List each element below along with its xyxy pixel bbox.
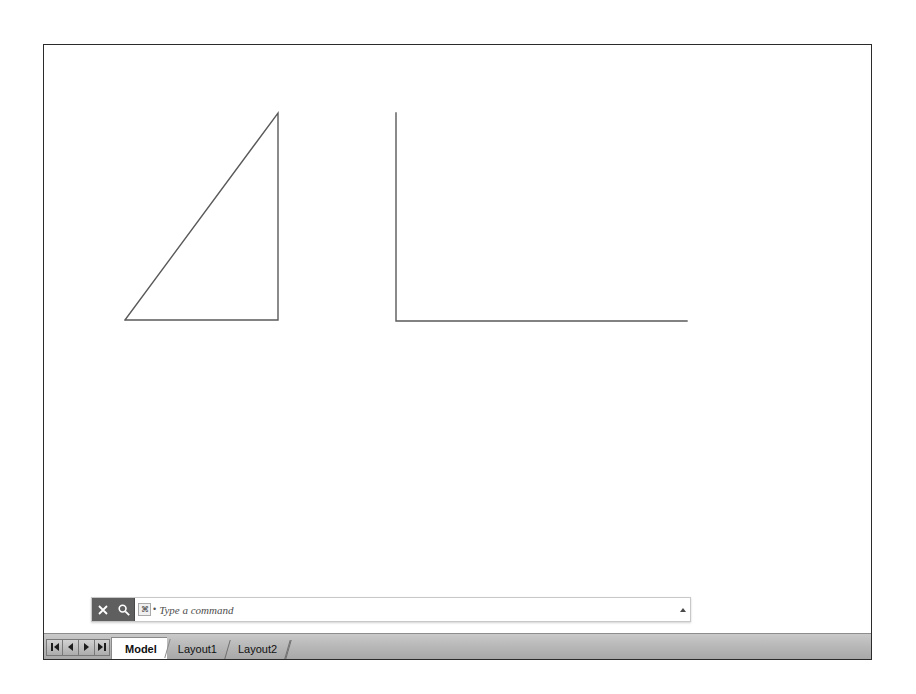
nav-last-icon [98,643,106,651]
tab-strip-tail [285,639,299,659]
last-layout-button[interactable] [94,639,110,656]
search-icon[interactable] [117,603,131,617]
command-line-bar[interactable]: ⌘ • [91,597,691,622]
nav-first-icon [51,643,59,651]
application-window: ⌘ • [43,44,872,660]
layout-navigation-buttons [46,638,110,656]
close-icon[interactable] [96,603,110,617]
command-prompt-bullet: • [151,605,159,614]
tab-model-label: Model [125,643,157,655]
previous-layout-button[interactable] [62,639,78,656]
layout-tab-bar: Model Layout1 Layout2 [44,633,871,659]
drawing-canvas[interactable] [44,45,871,633]
shape-l-polyline[interactable] [396,113,687,321]
expand-up-icon[interactable] [676,608,690,612]
nav-next-icon [84,643,89,651]
command-line-tools [92,598,135,621]
first-layout-button[interactable] [46,639,62,656]
tab-layout2[interactable]: Layout2 [225,639,287,659]
tab-layout2-label: Layout2 [238,643,277,655]
next-layout-button[interactable] [78,639,94,656]
command-input[interactable] [159,604,676,616]
tab-layout1[interactable]: Layout1 [165,639,227,659]
layout-tabs: Model Layout1 Layout2 [111,637,871,659]
tab-layout1-label: Layout1 [178,643,217,655]
command-input-zone[interactable]: ⌘ • [135,598,690,621]
command-prompt-icon[interactable]: ⌘ [138,603,151,616]
nav-previous-icon [68,643,73,651]
shape-right-triangle[interactable] [125,113,278,320]
drawing-geometry [44,45,871,633]
tab-model[interactable]: Model [111,637,167,659]
